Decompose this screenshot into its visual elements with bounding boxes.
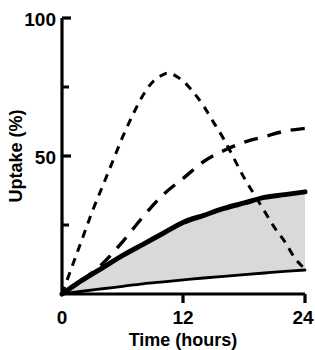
y-tick-label-100: 100: [24, 9, 56, 30]
x-axis-title: Time (hours): [129, 330, 238, 350]
uptake-vs-time-line-chart: 100 50 0 12 24 Uptake (%) Time (hours): [0, 0, 315, 350]
chart-background: [0, 0, 315, 350]
x-tick-label-24: 24: [292, 307, 314, 328]
y-tick-label-50: 50: [35, 147, 56, 168]
x-tick-label-12: 12: [172, 307, 193, 328]
y-axis-title: Uptake (%): [6, 109, 26, 202]
x-tick-label-0: 0: [57, 307, 68, 328]
chart-figure: 100 50 0 12 24 Uptake (%) Time (hours): [0, 0, 315, 350]
